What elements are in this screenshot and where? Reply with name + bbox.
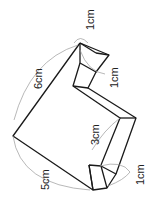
label-middle-edge: 3cm — [89, 124, 101, 145]
label-long-edge: 6cm — [32, 68, 44, 89]
prism-diagram: 1cm 1cm 6cm 3cm 5cm 1cm — [0, 0, 154, 215]
label-top-thickness: 1cm — [84, 9, 96, 30]
dimension-guides — [13, 39, 130, 191]
label-upper-notch: 1cm — [108, 67, 120, 88]
label-short-edge: 5cm — [39, 169, 51, 190]
dimension-labels: 1cm 1cm 6cm 3cm 5cm 1cm — [32, 9, 146, 190]
solid-edges — [13, 43, 136, 190]
label-bottom-notch: 1cm — [134, 164, 146, 185]
